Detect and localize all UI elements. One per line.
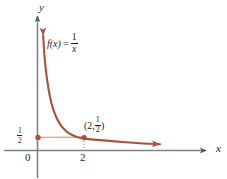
- function-label-equals: =: [61, 39, 71, 49]
- y-value-label-one-half: 1 2: [17, 128, 22, 145]
- function-label-fraction: 1x: [71, 32, 78, 54]
- fraction-numerator: 1: [17, 127, 22, 134]
- function-fraction-denominator: x: [71, 44, 78, 54]
- function-label: f(x)=1x: [47, 33, 78, 55]
- tick-label-x-two: 2: [80, 152, 86, 163]
- point-label-2-one-half: (2,12): [84, 117, 104, 135]
- plot-canvas: [0, 0, 227, 179]
- point-fraction-numerator: 1: [95, 116, 101, 124]
- point-label-fraction: 12: [95, 116, 101, 134]
- point-label-close-paren: ): [101, 121, 104, 131]
- point-marker-y-half: [35, 135, 40, 140]
- function-graph-figure: y x 0 2 1 2 (2,12) f(x)=1x: [0, 0, 227, 179]
- x-axis-label: x: [216, 143, 221, 154]
- y-axis-label: y: [39, 2, 44, 13]
- function-label-lhs: f(x): [47, 39, 61, 49]
- point-fraction-denominator: 2: [95, 126, 101, 134]
- tick-label-origin: 0: [25, 152, 31, 163]
- function-fraction-numerator: 1: [71, 32, 78, 42]
- point-marker-2-half: [81, 135, 86, 140]
- fraction-denominator: 2: [17, 137, 22, 144]
- fraction-one-half: 1 2: [17, 127, 22, 144]
